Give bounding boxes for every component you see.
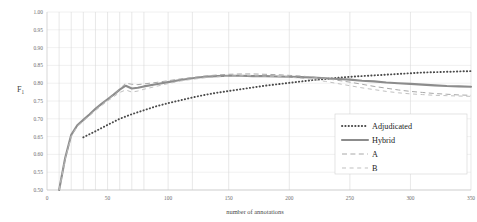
- x-tick-label: 100: [164, 195, 172, 201]
- x-tick-label: 50: [105, 195, 111, 201]
- y-tick-label: 0.70: [34, 116, 44, 122]
- x-tick-label: 0: [46, 195, 49, 201]
- x-tick-label: 300: [406, 195, 414, 201]
- y-tick-label: 0.85: [34, 62, 44, 68]
- legend-label-b: B: [372, 164, 378, 173]
- chart-figure: 0.500.550.600.650.700.750.800.850.900.95…: [0, 0, 477, 222]
- x-tick-label: 350: [467, 195, 475, 201]
- y-tick-label: 1.00: [34, 9, 44, 15]
- y-tick-label: 0.65: [34, 134, 44, 140]
- legend-label-a: A: [372, 150, 378, 159]
- y-tick-label: 0.55: [34, 169, 44, 175]
- y-tick-label: 0.75: [34, 98, 44, 104]
- legend-label-adjudicated: Adjudicated: [372, 122, 412, 131]
- y-tick-label: 0.50: [34, 187, 44, 193]
- x-tick-label: 150: [225, 195, 233, 201]
- y-tick-label: 0.90: [34, 45, 44, 51]
- f1-vs-annotations-line-chart: 0.500.550.600.650.700.750.800.850.900.95…: [0, 0, 477, 222]
- y-tick-label: 0.80: [34, 80, 44, 86]
- chart-background: [0, 0, 477, 222]
- chart-legend: AdjudicatedHybridAB: [335, 114, 467, 174]
- x-tick-label: 200: [285, 195, 293, 201]
- x-tick-label: 250: [346, 195, 354, 201]
- x-axis-title: number of annotations: [226, 208, 284, 215]
- y-tick-label: 0.95: [34, 27, 44, 33]
- legend-label-hybrid: Hybrid: [372, 136, 395, 145]
- y-tick-label: 0.60: [34, 151, 44, 157]
